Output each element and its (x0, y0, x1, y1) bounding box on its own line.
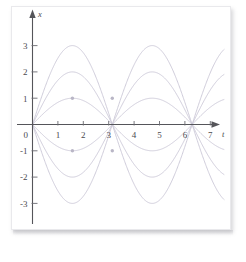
y-tick-label-1: 1 (23, 94, 28, 104)
x-tick-label-1: 1 (56, 130, 61, 140)
data-marker-0 (71, 97, 74, 100)
chart-plot-area: 01234567-3-2-1123 x t (11, 6, 231, 230)
y-tick-label-2: 2 (23, 67, 28, 77)
data-marker-2 (111, 97, 114, 100)
chart-svg: 01234567-3-2-1123 x t (11, 6, 231, 230)
x-axis-label: t (222, 129, 225, 139)
page-shadow (13, 230, 233, 235)
x-axis-arrow (212, 121, 221, 127)
y-tick-label--2: -2 (20, 172, 28, 182)
y-tick-label--1: -1 (20, 146, 28, 156)
y-axis-label: x (37, 9, 42, 19)
x-tick-label-0: 0 (24, 130, 29, 140)
x-tick-label-4: 4 (132, 130, 137, 140)
x-tick-label-7: 7 (208, 130, 213, 140)
y-tick-label--3: -3 (20, 199, 28, 209)
caption-strip (10, 238, 236, 256)
y-tick-label-3: 3 (23, 41, 28, 51)
data-marker-1 (71, 149, 74, 152)
x-tick-label-6: 6 (183, 130, 188, 140)
data-marker-3 (111, 149, 114, 152)
figure-container: 01234567-3-2-1123 x t (0, 0, 246, 262)
x-tick-label-2: 2 (81, 130, 86, 140)
x-tick-label-5: 5 (157, 130, 162, 140)
y-axis-arrow (29, 10, 35, 19)
x-tick-label-3: 3 (106, 130, 111, 140)
